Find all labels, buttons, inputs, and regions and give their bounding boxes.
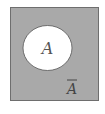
complement-label: A bbox=[65, 81, 77, 97]
set-a-label: A bbox=[40, 39, 54, 58]
venn-diagram: A A bbox=[0, 0, 105, 114]
